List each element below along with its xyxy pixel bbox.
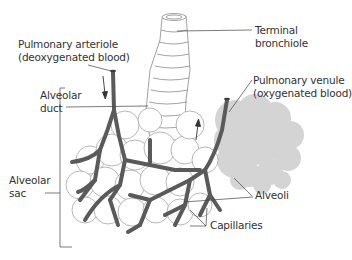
label-alveolar-sac: Alveolar sac — [9, 174, 50, 199]
label-alveoli: Alveoli — [255, 189, 289, 202]
label-terminal-bronchiole: Terminal bronchiole — [255, 24, 308, 49]
label-pulmonary-arteriole: Pulmonary arteriole (deoxygenated blood) — [18, 38, 130, 63]
arrow-down-icon — [103, 92, 108, 100]
label-alveolar-duct: Alveolar duct — [40, 89, 81, 114]
label-capillaries: Capillaries — [210, 219, 263, 232]
label-pulmonary-venule: Pulmonary venule (oxygenated blood) — [253, 74, 352, 99]
